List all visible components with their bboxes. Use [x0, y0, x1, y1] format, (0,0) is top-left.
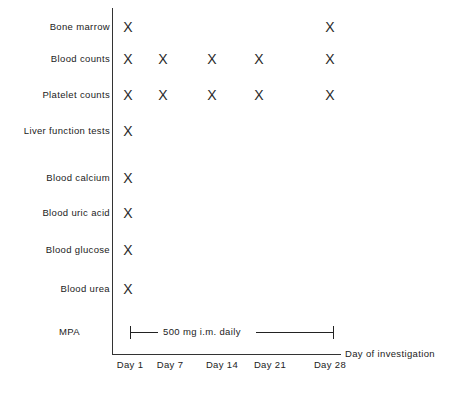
x-marker: X [123, 171, 132, 185]
x-marker: X [123, 243, 132, 257]
day-tick-label-7: Day 7 [157, 360, 184, 370]
x-marker: X [123, 282, 132, 296]
x-marker: X [325, 20, 334, 34]
x-marker: X [325, 88, 334, 102]
x-marker: X [123, 124, 132, 138]
row-label-blood-glucose: Blood glucose [46, 245, 110, 255]
x-marker: X [158, 88, 167, 102]
x-marker: X [254, 52, 263, 66]
vertical-axis-line [112, 8, 113, 355]
row-label-blood-uric-acid: Blood uric acid [42, 208, 110, 218]
bracket-right-cap [333, 326, 334, 339]
x-marker: X [123, 206, 132, 220]
x-marker: X [325, 52, 334, 66]
bracket-left-bar [130, 332, 158, 333]
row-label-blood-calcium: Blood calcium [46, 173, 110, 183]
row-label-platelet-counts: Platelet counts [42, 90, 110, 100]
treatment-dose-label: 500 mg i.m. daily [160, 327, 244, 337]
investigation-schedule-chart: Bone marrow Blood counts Platelet counts… [0, 0, 454, 393]
x-marker: X [158, 52, 167, 66]
x-marker: X [207, 88, 216, 102]
x-marker: X [207, 52, 216, 66]
day-tick-label-1: Day 1 [117, 360, 144, 370]
x-marker: X [123, 88, 132, 102]
x-axis-title: Day of investigation [345, 349, 435, 359]
row-label-mpa: MPA [59, 327, 80, 337]
bracket-right-bar [256, 332, 334, 333]
x-marker: X [123, 20, 132, 34]
row-label-blood-counts: Blood counts [51, 54, 110, 64]
day-tick-label-14: Day 14 [206, 360, 238, 370]
row-label-liver-function-tests: Liver function tests [24, 126, 110, 136]
day-tick-label-21: Day 21 [254, 360, 286, 370]
x-marker: X [123, 52, 132, 66]
horizontal-axis-line [112, 354, 341, 355]
row-label-bone-marrow: Bone marrow [50, 22, 110, 32]
row-label-blood-urea: Blood urea [61, 284, 110, 294]
x-marker: X [254, 88, 263, 102]
day-tick-label-28: Day 28 [314, 360, 346, 370]
